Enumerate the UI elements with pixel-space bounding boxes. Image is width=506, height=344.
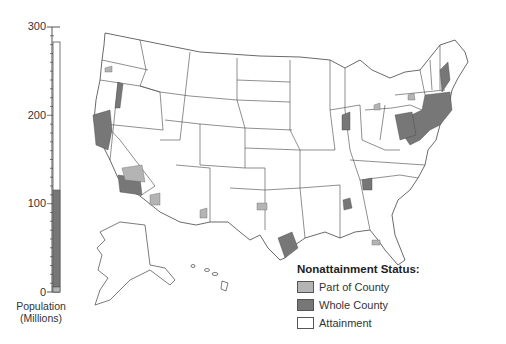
population-axis: 300 200 100 0 Population (Millions) [0,0,80,344]
swatch-whole-county [297,299,314,311]
legend-label: Whole County [319,299,388,311]
swatch-part-county [297,281,314,293]
alaska [95,222,175,305]
swatch-attainment [297,317,314,329]
axis-title-line2: (Millions) [2,312,80,324]
legend: Nonattainment Status: Part of County Who… [297,263,457,332]
legend-item-whole-county: Whole County [297,296,457,314]
tick-200: 200 [2,109,46,121]
legend-item-attainment: Attainment [297,314,457,332]
tick-100: 100 [2,197,46,209]
legend-label: Part of County [319,281,389,293]
legend-label: Attainment [319,317,372,329]
tick-300: 300 [2,20,46,32]
legend-item-part-county: Part of County [297,278,457,296]
hawaii [191,265,228,292]
tick-0: 0 [2,286,46,298]
axis-title-line1: Population [2,300,80,312]
axis-title: Population (Millions) [2,300,80,324]
legend-title: Nonattainment Status: [297,263,457,275]
contiguous-us [94,33,468,265]
